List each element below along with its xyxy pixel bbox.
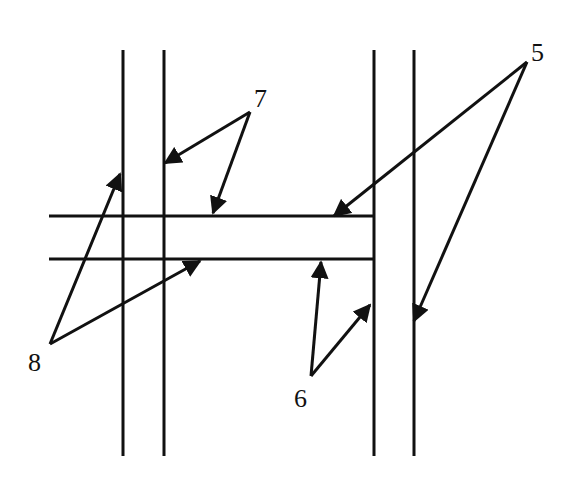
leader-arrow-5	[334, 62, 527, 216]
vertical-members	[123, 50, 414, 456]
leader-arrow-5	[414, 62, 527, 321]
label-7: 7	[254, 86, 267, 112]
leader-arrow-6	[311, 305, 370, 376]
diagram-canvas	[0, 0, 583, 480]
leader-arrow-6	[311, 262, 321, 376]
label-8: 8	[28, 350, 41, 376]
horizontal-members	[49, 216, 374, 259]
leader-arrow-8	[50, 261, 200, 344]
label-5: 5	[531, 40, 544, 66]
leader-arrow-7	[165, 112, 250, 163]
leader-arrow-7	[213, 112, 250, 213]
label-6: 6	[294, 386, 307, 412]
